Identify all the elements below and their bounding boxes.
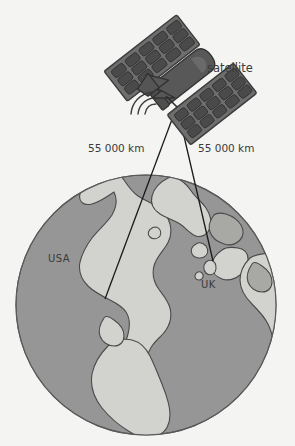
label-region-usa: USA: [48, 254, 70, 264]
satellite-link-diagram: satellite 55 000 km 55 000 km USA UK: [0, 0, 295, 446]
label-region-uk: UK: [201, 280, 216, 290]
label-satellite: satellite: [207, 63, 253, 75]
label-distance-right: 55 000 km: [198, 143, 254, 154]
label-distance-left: 55 000 km: [88, 143, 144, 154]
